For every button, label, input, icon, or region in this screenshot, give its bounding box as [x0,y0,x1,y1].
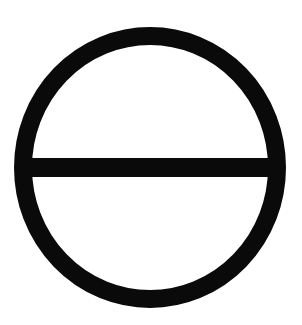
symbol-canvas [0,0,302,325]
